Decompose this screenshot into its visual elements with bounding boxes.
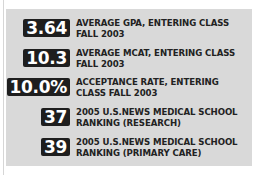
- stat-label-line2: RANKING (RESEARCH): [76, 118, 181, 128]
- stat-row-research-rank: 37 2005 U.S.NEWS MEDICAL SCHOOLRANKING (…: [6, 108, 252, 138]
- stat-row-mcat: 10.3 AVERAGE MCAT, ENTERING CLASSFALL 20…: [6, 49, 252, 79]
- stat-label: ACCEPTANCE RATE, ENTERINGCLASS FALL 2003: [76, 77, 252, 98]
- stat-value: 39: [41, 138, 70, 156]
- stat-value: 37: [41, 108, 70, 126]
- stats-panel: 3.64 AVERAGE GPA, ENTERING CLASSFALL 200…: [6, 9, 252, 166]
- stat-value: 3.64: [23, 19, 70, 37]
- stat-label-line2: CLASS FALL 2003: [76, 88, 157, 98]
- stat-value: 10.0%: [7, 78, 70, 96]
- stat-value: 10.3: [23, 49, 70, 67]
- stat-label: 2005 U.S.NEWS MEDICAL SCHOOLRANKING (PRI…: [76, 137, 252, 158]
- stat-label: 2005 U.S.NEWS MEDICAL SCHOOLRANKING (RES…: [76, 107, 252, 128]
- stat-label: AVERAGE MCAT, ENTERING CLASSFALL 2003: [76, 48, 252, 69]
- stat-row-primary-care-rank: 39 2005 U.S.NEWS MEDICAL SCHOOLRANKING (…: [6, 138, 252, 168]
- stat-label-line2: RANKING (PRIMARY CARE): [76, 148, 201, 158]
- stat-label-line1: AVERAGE MCAT, ENTERING CLASS: [76, 48, 235, 58]
- stat-row-gpa: 3.64 AVERAGE GPA, ENTERING CLASSFALL 200…: [6, 19, 252, 49]
- stat-label-line1: 2005 U.S.NEWS MEDICAL SCHOOL: [76, 137, 238, 147]
- stat-label-line1: ACCEPTANCE RATE, ENTERING: [76, 77, 219, 87]
- stat-label-line1: 2005 U.S.NEWS MEDICAL SCHOOL: [76, 107, 238, 117]
- stat-label-line2: FALL 2003: [76, 29, 125, 39]
- stat-row-acceptance: 10.0% ACCEPTANCE RATE, ENTERINGCLASS FAL…: [6, 78, 252, 108]
- stat-label: AVERAGE GPA, ENTERING CLASSFALL 2003: [76, 18, 252, 39]
- border-line: [3, 0, 4, 175]
- stat-label-line1: AVERAGE GPA, ENTERING CLASS: [76, 18, 229, 28]
- stat-label-line2: FALL 2003: [76, 59, 125, 69]
